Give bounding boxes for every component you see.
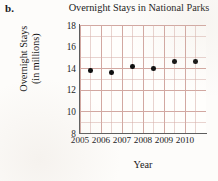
y-tick-label: 14 — [60, 65, 76, 74]
plot-area — [80, 25, 206, 133]
y-axis-title: Overnight Stays (in millions) — [18, 0, 41, 118]
y-axis-line — [79, 24, 81, 134]
y-tick-label: 12 — [60, 86, 76, 95]
y-axis-tick-labels: 18 16 14 12 10 8 — [57, 0, 76, 181]
data-point — [88, 68, 93, 73]
data-point — [151, 66, 156, 71]
data-point — [193, 59, 198, 64]
x-tick-label: 2010 — [172, 136, 198, 145]
data-point — [172, 59, 177, 64]
chart-title: Overnight Stays in National Parks — [63, 2, 215, 14]
problem-label: b. — [5, 3, 14, 14]
data-point — [130, 64, 135, 69]
y-tick-label: 10 — [60, 108, 76, 117]
y-tick-label: 18 — [60, 22, 76, 31]
y-tick-label: 16 — [60, 43, 76, 52]
x-axis-line — [79, 133, 207, 135]
x-axis-title: Year — [80, 160, 206, 170]
y-axis-title-line1: Overnight Stays — [18, 26, 29, 92]
figure-container: b. Overnight Stays in National Parks 18 … — [0, 0, 218, 181]
data-point — [109, 70, 114, 75]
y-axis-title-line2: (in millions) — [30, 0, 42, 118]
